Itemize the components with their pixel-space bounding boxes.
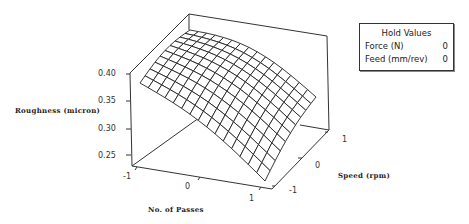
legend-row-feed: Feed (mm/rev) 0 xyxy=(360,54,453,64)
legend-row-force: Force (N) 0 xyxy=(360,41,453,51)
y-axis-title: Speed (rpm) xyxy=(338,171,390,180)
passes-axis xyxy=(132,166,272,189)
z-tick-label: 0.40 xyxy=(98,69,116,78)
speed-tick-label: 1 xyxy=(342,135,347,144)
z-tick-label: 0.30 xyxy=(98,124,116,133)
roughness-surface-mesh xyxy=(140,30,316,181)
legend-title: Hold Values xyxy=(360,28,453,38)
speed-tick-label: 0 xyxy=(315,161,320,170)
hold-values-legend: Hold Values Force (N) 0 Feed (mm/rev) 0 xyxy=(359,23,454,71)
back-wall-top-edge xyxy=(189,14,327,36)
z-tick-label: 0.25 xyxy=(98,151,116,160)
legend-label: Feed (mm/rev) xyxy=(365,54,428,64)
passes-tick-label: 0 xyxy=(185,182,190,191)
right-wall-edge xyxy=(327,36,329,130)
legend-label: Force (N) xyxy=(365,41,404,51)
legend-value: 0 xyxy=(443,41,448,51)
legend-value: 0 xyxy=(443,54,448,64)
passes-tick-label: -1 xyxy=(123,172,131,181)
z-axis xyxy=(130,73,132,166)
passes-tick-label: 1 xyxy=(249,194,254,203)
speed-tick-label: -1 xyxy=(289,186,297,195)
x-axis-title: No. of Passes xyxy=(148,205,204,214)
z-axis-title: Roughness (micron) xyxy=(15,106,100,115)
z-tick-label: 0.35 xyxy=(98,96,116,105)
floor-back-edge xyxy=(300,125,329,130)
